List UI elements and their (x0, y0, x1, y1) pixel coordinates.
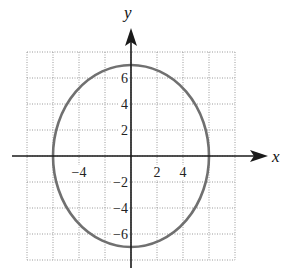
y-tick-label: 2 (121, 123, 128, 138)
y-tick-label: 4 (121, 97, 128, 112)
ellipse-graph: −424642−2−4−6 x y (0, 0, 286, 272)
x-tick-label: −4 (72, 165, 87, 180)
y-tick-label: −6 (113, 227, 128, 242)
y-tick-label: 6 (121, 71, 128, 86)
x-axis-label: x (271, 147, 280, 166)
y-tick-label: −2 (113, 175, 128, 190)
y-axis-label: y (122, 3, 132, 22)
x-tick-label: 2 (154, 165, 161, 180)
x-tick-label: 4 (180, 165, 187, 180)
axes (12, 28, 268, 268)
y-tick-label: −4 (113, 201, 128, 216)
